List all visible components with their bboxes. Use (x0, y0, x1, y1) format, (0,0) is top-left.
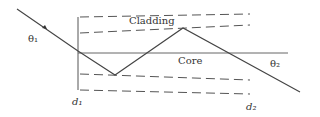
cladding-inner-bottom-line (80, 74, 250, 80)
theta2-label: θ₂ (270, 59, 280, 69)
theta1-label: θ₁ (28, 34, 38, 44)
cladding-outer-bottom-line (80, 90, 250, 94)
core-label: Core (178, 56, 202, 66)
cladding-inner-top-line (80, 25, 250, 33)
d1-label: d₁ (72, 97, 82, 107)
d2-label: d₂ (246, 102, 256, 112)
cladding-label: Cladding (129, 16, 175, 26)
